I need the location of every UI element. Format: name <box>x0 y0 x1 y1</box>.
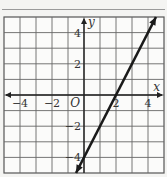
y-tick-label: −2 <box>65 120 81 133</box>
x-tick-label: −2 <box>44 97 60 110</box>
y-tick-label: 4 <box>74 27 81 40</box>
y-tick-label: −4 <box>65 151 81 164</box>
y-tick-label: 2 <box>74 58 81 71</box>
x-tick-label: −4 <box>12 97 28 110</box>
coordinate-plane: −4−22442−2−4Oxy <box>0 0 167 177</box>
x-axis-label: x <box>153 80 160 94</box>
x-tick-label: 4 <box>145 97 152 110</box>
y-axis-label: y <box>87 15 95 29</box>
origin-label: O <box>70 96 80 110</box>
